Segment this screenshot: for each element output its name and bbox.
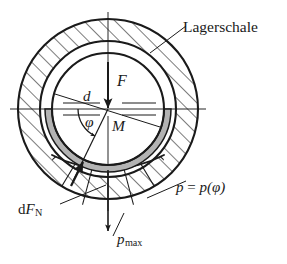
label-pressure-arg: p(φ)	[199, 179, 225, 195]
label-pressure-function: p = p(φ)	[176, 180, 225, 195]
label-normal-force: dFN	[18, 202, 42, 218]
figure-drawing-canvas	[0, 0, 287, 264]
label-dfn-d: d	[18, 201, 26, 217]
label-pmax-p: p	[117, 231, 125, 247]
label-pressure-max: pmax	[117, 232, 142, 248]
label-diameter-d: d	[83, 89, 91, 104]
label-pmax-sub: max	[125, 237, 143, 248]
label-pressure-eq-sign: =	[187, 179, 195, 195]
label-center-m: M	[112, 118, 125, 134]
label-dfn-sub: N	[35, 207, 43, 218]
label-lagerschale: Lagerschale	[183, 19, 258, 35]
label-pressure-p: p	[176, 179, 184, 195]
label-force-f: F	[117, 73, 127, 89]
label-dfn-f: F	[26, 201, 35, 217]
label-angle-phi: φ	[85, 114, 94, 130]
bearing-pressure-figure: Lagerschale F d φ M p = p(φ) dFN pmax	[0, 0, 287, 264]
